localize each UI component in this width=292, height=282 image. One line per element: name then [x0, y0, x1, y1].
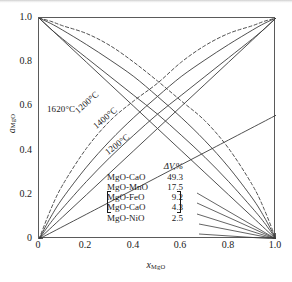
annotation-temp-1620c: 1620°C — [47, 104, 75, 114]
legend-header-deltav-unit: ,% — [173, 161, 183, 171]
legend-row: MgO-NiO 2.5 — [107, 213, 183, 223]
legend-brace-left — [107, 191, 111, 213]
y-axis-title: aMgO — [6, 104, 17, 144]
legend-system-mgo-cao-2: MgO-CaO — [107, 202, 157, 212]
x-axis-title: xMgO — [126, 259, 186, 270]
legend-system-mgo-feo: MgO-FeO — [107, 192, 157, 202]
legend-header-row: ΔV,% — [107, 161, 183, 172]
legend-brace-right — [177, 191, 181, 213]
legend-row: MgO-MnO 17.5 — [107, 182, 183, 192]
x-tick-label-0.8: 0.8 — [213, 240, 243, 250]
legend-row: MgO-CaO 49.3 — [107, 172, 183, 182]
x-tick-label-0: 0 — [23, 240, 53, 250]
x-axis-title-sub: MgO — [151, 263, 165, 270]
legend-grid: ΔV,% MgO-CaO 49.3 MgO-MnO 17.5 MgO-FeO 9… — [107, 161, 183, 223]
legend-leader-lines — [197, 193, 276, 239]
y-axis-title-sub: MgO — [9, 114, 16, 128]
legend-header-deltav: ΔV,% — [157, 161, 183, 172]
y-tick-label-0.2: 0.2 — [6, 189, 32, 199]
legend-system-mgo-nio: MgO-NiO — [107, 213, 157, 223]
legend-header-spacer — [107, 161, 157, 172]
scan-edge-artifact — [0, 0, 292, 3]
x-tick-label-1.0: 1.0 — [260, 240, 290, 250]
figure-container: 1.0 0.8 0.6 0.4 0.2 0 aMgO 0 0.2 0.4 0.6… — [0, 0, 292, 282]
legend-row: MgO-CaO 4.3 — [107, 202, 183, 212]
y-tick-label-0.4: 0.4 — [6, 145, 32, 155]
x-tick-label-0.6: 0.6 — [165, 240, 195, 250]
x-tick-label-0.2: 0.2 — [70, 240, 100, 250]
legend-leader-line — [197, 193, 276, 239]
legend-system-mgo-mno: MgO-MnO — [107, 182, 157, 192]
legend-table: ΔV,% MgO-CaO 49.3 MgO-MnO 17.5 MgO-FeO 9… — [107, 161, 183, 223]
y-axis-title-base: a — [6, 128, 17, 133]
legend-value-mgo-nio: 2.5 — [157, 213, 183, 223]
y-tick-label-1.0: 1.0 — [6, 12, 32, 22]
legend-system-mgo-cao-1: MgO-CaO — [107, 172, 157, 182]
x-tick-label-0.4: 0.4 — [118, 240, 148, 250]
legend-row: MgO-FeO 9.2 — [107, 192, 183, 202]
y-tick-label-0.8: 0.8 — [6, 56, 32, 66]
legend-value-mgo-cao-1: 49.3 — [157, 172, 183, 182]
legend-header-deltav-symbol: ΔV — [164, 161, 174, 171]
